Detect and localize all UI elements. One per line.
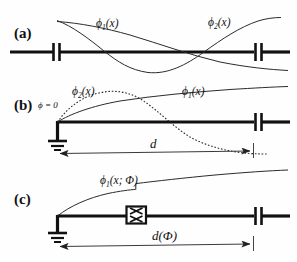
capacitor-right-c: [256, 207, 262, 225]
panel-c: (c): [14, 170, 290, 251]
panel-b-label: (b): [14, 97, 32, 114]
capacitor-right-b: [256, 113, 262, 131]
panel-b: (b) ϕ = 0 ϕ2(x): [14, 85, 290, 158]
panel-c-label: (c): [14, 191, 31, 208]
panel-b-label-phi1: ϕ1(x): [182, 85, 205, 100]
panel-c-dimension-label: d(Φ): [152, 228, 177, 243]
panel-a-label: (a): [14, 25, 32, 42]
panel-c-label-phi1-flux: ϕ1(x; Φ): [100, 174, 138, 189]
figure-canvas: (a) ϕ1(x) ϕ2(x): [0, 0, 297, 262]
panel-b-phi-zero-label: ϕ = 0: [38, 100, 58, 110]
panel-b-label-phi2: ϕ2(x): [72, 85, 95, 100]
panel-c-curve-phi1-flux: [58, 189, 136, 216]
panel-a: (a) ϕ1(x) ϕ2(x): [10, 16, 290, 73]
ground-symbol-c: [48, 233, 67, 242]
panel-c-dimension-d-flux: d(Φ): [60, 228, 254, 251]
capacitor-left-a: [54, 43, 60, 61]
ground-symbol-b: [48, 141, 67, 150]
panel-c-curve-phi1-flux-right: [136, 170, 288, 184]
josephson-junction-symbol: [127, 207, 147, 224]
capacitor-right-a: [256, 43, 262, 61]
panel-a-curve-phi1: [57, 22, 288, 71]
panel-b-dimension-label: d: [150, 136, 157, 151]
figure-svg: (a) ϕ1(x) ϕ2(x): [0, 0, 297, 262]
panel-a-label-phi2: ϕ2(x): [208, 16, 231, 31]
panel-b-dimension-d: d: [60, 136, 254, 158]
